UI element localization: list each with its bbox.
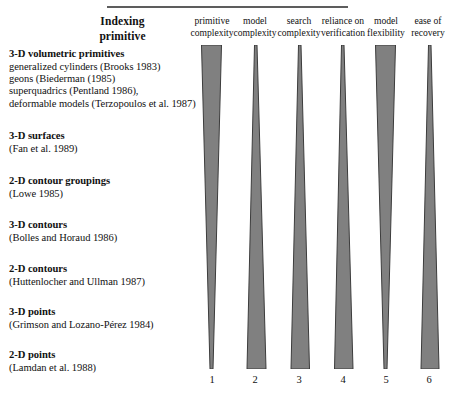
wedge-ease-of-recovery	[418, 45, 442, 369]
wedge-model-flexibility	[374, 45, 398, 369]
column-header-line-1: ease of	[399, 15, 457, 27]
wedge-chart: primitive complexity model complexity se…	[0, 0, 457, 397]
axis-number-6: 6	[409, 374, 449, 386]
wedge-primitive-complexity	[200, 45, 224, 369]
indexing-primitive-figure: Indexing primitive 3-D volumetric primit…	[0, 0, 457, 397]
wedge-reliance-on-verification	[331, 45, 355, 369]
axis-number-4: 4	[323, 374, 363, 386]
axis-number-5: 5	[366, 374, 406, 386]
column-header-line-2: recovery	[399, 27, 457, 39]
axis-number-1: 1	[192, 374, 232, 386]
column-header-ease-of-recovery: ease of recovery	[399, 15, 457, 38]
wedge-model-complexity	[244, 45, 268, 369]
wedge-search-complexity	[288, 45, 312, 369]
axis-number-2: 2	[235, 374, 275, 386]
axis-number-3: 3	[279, 374, 319, 386]
